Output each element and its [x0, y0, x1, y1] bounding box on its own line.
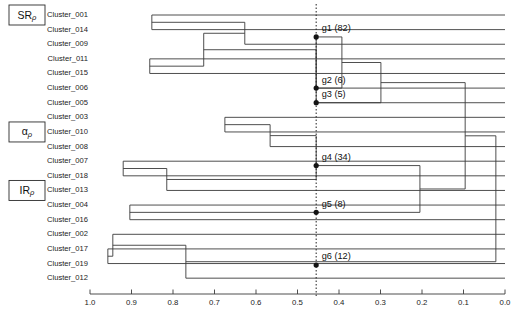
leaf-label: Cluster_011	[48, 54, 88, 63]
leaf-label: Cluster_010	[47, 127, 88, 136]
group-label-g3: g3 (5)	[322, 89, 346, 99]
axis-tick-label: 0.3	[375, 298, 386, 307]
group-label-g4: g4 (34)	[322, 152, 351, 162]
group-node-g3	[314, 100, 319, 105]
leaf-label: Cluster_019	[47, 259, 88, 268]
dendrogram-branch	[167, 136, 316, 180]
axis-tick-label: 0.6	[251, 298, 262, 307]
group-label-g6: g6 (12)	[322, 251, 351, 261]
leaf-label: Cluster_002	[47, 229, 88, 238]
leaf-label: Cluster_018	[47, 171, 88, 180]
side-label-main-IRp: IR	[20, 184, 31, 196]
side-label-sub-ap: ρ	[27, 130, 33, 139]
axis-tick-label: 0.4	[334, 298, 346, 307]
side-annotation-boxes: SRραρIRρ	[9, 5, 45, 200]
x-axis: 1.00.90.80.70.60.50.40.30.20.10.0	[85, 290, 512, 308]
axis-tick-label: 0.9	[126, 298, 137, 307]
axis-tick-label: 0.2	[417, 298, 428, 307]
leaf-label: Cluster_007	[47, 156, 88, 165]
dendrogram-figure: Cluster_001Cluster_014Cluster_009Cluster…	[0, 0, 525, 318]
dendrogram-branch	[123, 161, 505, 176]
leaf-label: Cluster_008	[47, 142, 88, 151]
group-label-g2: g2 (6)	[322, 75, 346, 85]
axis-tick-label: 0.7	[209, 298, 220, 307]
leaf-label: Cluster_004	[47, 200, 88, 209]
leaf-label: Cluster_006	[47, 83, 88, 92]
side-label-main-SRp: SR	[18, 8, 33, 20]
group-node-g4	[314, 163, 319, 168]
dendrogram-branch	[225, 125, 505, 147]
dendrogram-links	[108, 15, 505, 278]
side-label-text-SRp: SRρ	[18, 8, 38, 22]
axis-tick-label: 0.1	[458, 298, 469, 307]
axis-tick-label: 0.0	[500, 298, 512, 307]
axis-tick-label: 0.8	[168, 298, 179, 307]
group-label-g5: g5 (8)	[322, 199, 346, 209]
group-node-g2	[314, 86, 319, 91]
leaf-labels: Cluster_001Cluster_014Cluster_009Cluster…	[47, 10, 88, 282]
side-label-text-IRp: IRρ	[20, 184, 36, 198]
leaf-label: Cluster_015	[47, 68, 88, 77]
group-label-g1: g1 (82)	[322, 23, 351, 33]
dendrogram-canvas: Cluster_001Cluster_014Cluster_009Cluster…	[0, 0, 525, 318]
group-node-g1	[314, 34, 319, 39]
group-node-g6	[314, 262, 319, 267]
leaf-label: Cluster_005	[47, 98, 88, 107]
axis-tick-label: 1.0	[85, 298, 97, 307]
side-label-text-ap: αρ	[22, 125, 33, 139]
dendrogram-branch	[381, 83, 465, 189]
leaf-label: Cluster_013	[47, 185, 88, 194]
axis-tick-label: 0.5	[292, 298, 304, 307]
leaf-label: Cluster_009	[47, 39, 88, 48]
side-label-sub-SRp: ρ	[31, 13, 37, 22]
leaf-label: Cluster_017	[47, 244, 88, 253]
side-label-sub-IRp: ρ	[29, 188, 35, 197]
leaf-label: Cluster_016	[47, 215, 88, 224]
group-node-g5	[314, 210, 319, 215]
leaf-label: Cluster_014	[47, 25, 88, 34]
leaf-label: Cluster_012	[47, 273, 88, 282]
leaf-label: Cluster_001	[47, 10, 88, 19]
leaf-label: Cluster_003	[47, 112, 88, 121]
